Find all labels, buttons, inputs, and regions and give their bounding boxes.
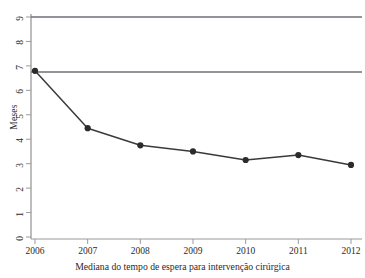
y-tick-label: 5 [15,114,25,136]
data-point-markers [32,68,354,168]
data-point-marker [190,148,196,154]
x-tick-label: 2009 [170,246,216,256]
y-tick-label: 9 [15,16,25,38]
y-tick-label: 1 [15,212,25,234]
y-tick-label: 7 [15,65,25,87]
data-point-marker [348,162,354,168]
x-tick-label: 2006 [12,246,58,256]
x-tick-label: 2012 [328,246,365,256]
y-tick-label: 4 [15,138,25,160]
axis-lines [31,14,362,239]
chart-container: Meses 0123456789 20062007200820092010201… [0,0,365,278]
data-point-marker [243,157,249,163]
data-point-marker [32,68,38,74]
x-axis-title: Mediana do tempo de espera para interven… [0,261,365,272]
data-point-marker [295,152,301,158]
data-point-marker [137,142,143,148]
y-tick-label: 2 [15,187,25,209]
y-tick-label: 8 [15,40,25,62]
y-tick-label: 3 [15,163,25,185]
x-tick-marks [35,239,351,244]
x-tick-label: 2007 [65,246,111,256]
y-tick-marks [26,17,31,237]
x-tick-label: 2010 [223,246,269,256]
data-point-marker [85,125,91,131]
reference-lines [31,17,362,72]
x-tick-label: 2008 [117,246,163,256]
line-chart-plot [0,0,365,278]
x-tick-label: 2011 [275,246,321,256]
y-tick-label: 6 [15,89,25,111]
